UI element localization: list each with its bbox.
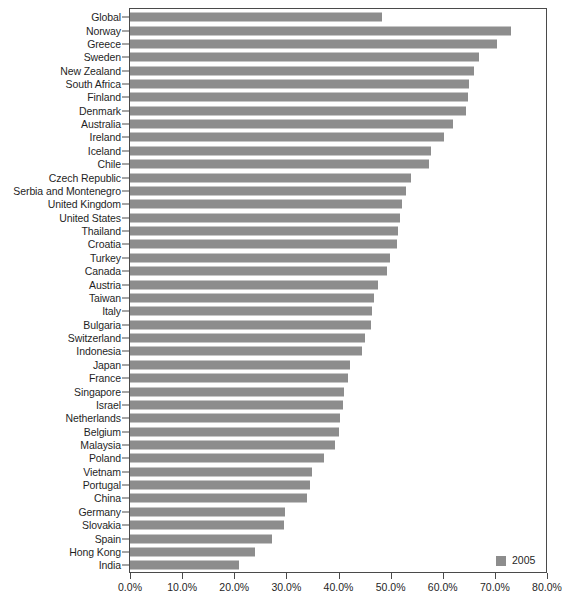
bar — [130, 334, 365, 343]
bar — [130, 521, 284, 530]
bar — [130, 293, 374, 302]
bar — [130, 267, 387, 276]
y-axis-tick — [122, 324, 129, 325]
bar-row: Switzerland — [0, 331, 564, 344]
category-label: Vietnam — [83, 466, 121, 477]
bar — [130, 427, 339, 436]
bar — [130, 106, 466, 115]
bar-row: Israel — [0, 398, 564, 411]
category-label: Malaysia — [80, 439, 121, 450]
bar — [130, 66, 474, 75]
x-axis-tick — [391, 573, 392, 579]
category-label: United Kingdom — [48, 199, 121, 210]
bar-row: Iceland — [0, 144, 564, 157]
category-label: Singapore — [74, 386, 121, 397]
x-axis-tick-label: 70.0% — [480, 581, 510, 593]
bar-row: Serbia and Montenegro — [0, 184, 564, 197]
bar-row: Spain — [0, 532, 564, 545]
bar-row: Thailand — [0, 224, 564, 237]
category-label: Austria — [89, 279, 121, 290]
bar-row: New Zealand — [0, 64, 564, 77]
x-axis-tick-label: 80.0% — [532, 581, 562, 593]
y-axis-tick — [122, 150, 129, 151]
y-axis-tick — [122, 17, 129, 18]
y-axis-tick — [122, 498, 129, 499]
category-label: Taiwan — [89, 292, 121, 303]
bar — [130, 440, 335, 449]
category-label: Hong Kong — [69, 546, 121, 557]
bar — [130, 253, 390, 262]
category-label: Spain — [95, 533, 121, 544]
y-axis-tick — [122, 70, 129, 71]
bar-chart: GlobalNorwayGreeceSwedenNew ZealandSouth… — [0, 0, 564, 597]
bar-row: United Kingdom — [0, 198, 564, 211]
y-axis-tick — [122, 565, 129, 566]
category-label: Australia — [81, 119, 121, 130]
bar — [130, 160, 429, 169]
category-label: Canada — [85, 266, 121, 277]
legend: 2005 — [496, 555, 535, 566]
y-axis-tick — [122, 204, 129, 205]
y-axis-tick — [122, 30, 129, 31]
y-axis-tick — [122, 404, 129, 405]
category-label: Croatia — [88, 239, 121, 250]
category-label: Finland — [87, 92, 121, 103]
category-label: Sweden — [84, 52, 121, 63]
x-axis-tick — [130, 573, 131, 579]
category-label: Poland — [89, 453, 121, 464]
category-label: Switzerland — [68, 333, 121, 344]
category-label: Italy — [102, 306, 121, 317]
bar-row: Japan — [0, 358, 564, 371]
x-axis-tick-label: 0.0% — [118, 581, 142, 593]
y-axis-tick — [122, 190, 129, 191]
y-axis-tick — [122, 137, 129, 138]
bar — [130, 13, 382, 22]
bar-row: United States — [0, 211, 564, 224]
bar — [130, 387, 344, 396]
y-axis-tick — [122, 391, 129, 392]
bar — [130, 133, 444, 142]
bar-row: Malaysia — [0, 438, 564, 451]
bar-row: Taiwan — [0, 291, 564, 304]
category-label: Turkey — [90, 252, 121, 263]
category-label: New Zealand — [60, 65, 121, 76]
bar-row: Slovakia — [0, 519, 564, 532]
category-label: Indonesia — [76, 346, 121, 357]
y-axis-tick — [122, 43, 129, 44]
y-axis-tick — [122, 418, 129, 419]
category-label: Denmark — [79, 105, 121, 116]
y-axis-tick — [122, 110, 129, 111]
x-axis-tick — [547, 573, 548, 579]
y-axis-tick — [122, 124, 129, 125]
x-axis-tick-label: 40.0% — [324, 581, 354, 593]
bar — [130, 307, 372, 316]
bar-row: China — [0, 492, 564, 505]
bar-row: Portugal — [0, 478, 564, 491]
category-label: China — [94, 493, 121, 504]
bar — [130, 454, 324, 463]
bar-row: Czech Republic — [0, 171, 564, 184]
bar-row: Singapore — [0, 385, 564, 398]
category-label: Norway — [86, 25, 121, 36]
y-axis-tick — [122, 311, 129, 312]
y-axis-tick — [122, 217, 129, 218]
category-label: South Africa — [66, 79, 121, 90]
bar-row: Canada — [0, 265, 564, 278]
x-axis-tick — [495, 573, 496, 579]
y-axis-tick — [122, 57, 129, 58]
y-axis-tick — [122, 164, 129, 165]
category-label: Bulgaria — [83, 319, 121, 330]
bar-row: Belgium — [0, 425, 564, 438]
bar — [130, 213, 400, 222]
bar — [130, 53, 479, 62]
x-axis-tick-label: 60.0% — [428, 581, 458, 593]
bar — [130, 39, 497, 48]
bar — [130, 400, 343, 409]
y-axis-tick — [122, 444, 129, 445]
bar-row: Global — [0, 11, 564, 24]
bar — [130, 320, 371, 329]
legend-swatch-2005 — [496, 556, 506, 566]
bar-rows: GlobalNorwayGreeceSwedenNew ZealandSouth… — [0, 0, 564, 597]
category-label: France — [89, 373, 121, 384]
bar — [130, 561, 239, 570]
